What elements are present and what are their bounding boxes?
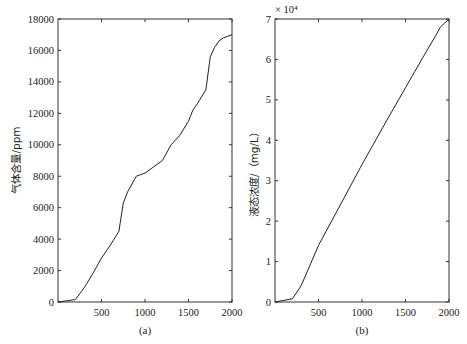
x-tick-label: 500 bbox=[311, 307, 327, 318]
y-tick-label: 16000 bbox=[28, 45, 54, 56]
figure: 0200040006000800010000120001400016000180… bbox=[0, 0, 467, 344]
y-tick-label: 18000 bbox=[28, 14, 54, 25]
y-tick-label: 3 bbox=[266, 175, 271, 186]
y-tick-label: 2 bbox=[266, 216, 271, 227]
x-tick-label: 1000 bbox=[352, 307, 373, 318]
plot-frame-a bbox=[58, 19, 232, 302]
y-tick-label: 6000 bbox=[33, 202, 54, 213]
y-multiplier-b: × 10⁴ bbox=[275, 4, 298, 15]
y-axis-title-a: 气体含量/ppm bbox=[10, 126, 22, 193]
y-tick-label: 0 bbox=[266, 297, 271, 308]
y-tick-label: 12000 bbox=[28, 108, 54, 119]
y-tick-label: 6 bbox=[266, 54, 271, 65]
y-axis-ticks-b: 01234567 bbox=[266, 14, 449, 308]
y-tick-label: 8000 bbox=[33, 171, 54, 182]
x-tick-label: 1000 bbox=[135, 307, 156, 318]
x-axis-ticks-b: 500100015002000 bbox=[311, 19, 460, 318]
y-tick-label: 0 bbox=[49, 297, 54, 308]
x-tick-label: 2000 bbox=[439, 307, 460, 318]
y-tick-label: 1 bbox=[266, 256, 271, 267]
y-tick-label: 10000 bbox=[28, 139, 54, 150]
x-tick-label: 1500 bbox=[178, 307, 199, 318]
caption-b: (b) bbox=[356, 324, 369, 337]
x-axis-ticks-a: 500100015002000 bbox=[94, 19, 243, 318]
y-tick-label: 4000 bbox=[33, 234, 54, 245]
y-axis-title-b: 液态浓度/（mg/L） bbox=[248, 127, 260, 217]
plot-frame-b bbox=[275, 19, 449, 302]
y-tick-label: 2000 bbox=[33, 265, 54, 276]
panel-b-liquid-concentration: 01234567 500100015002000 × 10⁴ 液态浓度/（mg/… bbox=[248, 4, 460, 337]
y-tick-label: 7 bbox=[266, 14, 271, 25]
x-tick-label: 1500 bbox=[395, 307, 416, 318]
x-tick-label: 2000 bbox=[222, 307, 243, 318]
y-tick-label: 4 bbox=[266, 135, 272, 146]
x-tick-label: 500 bbox=[94, 307, 110, 318]
panel-a-gas-content: 0200040006000800010000120001400016000180… bbox=[10, 14, 243, 338]
caption-a: (a) bbox=[139, 324, 152, 337]
y-tick-label: 5 bbox=[266, 94, 271, 105]
y-tick-label: 14000 bbox=[28, 76, 54, 87]
liquid-concentration-line bbox=[275, 19, 449, 302]
gas-content-line bbox=[58, 35, 232, 302]
